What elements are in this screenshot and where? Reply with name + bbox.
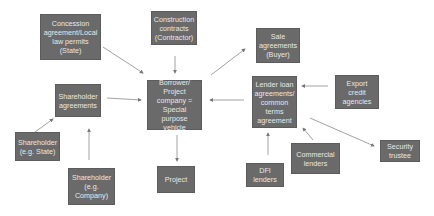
node-shareholder-company: Shareholder (e.g. Company): [68, 168, 115, 205]
arrow-borrower-to-sale: [211, 49, 245, 75]
node-security-trustee: Security trustee: [380, 140, 420, 162]
node-dfi-lenders: DFI lenders: [246, 163, 284, 187]
node-export-credit-agencies: Export credit agencies: [335, 75, 379, 109]
arrow-lender-to-security: [310, 118, 374, 146]
node-construction-contracts: Construction contracts (Contractor): [151, 11, 197, 45]
arrow-concession-to-borrower: [103, 47, 143, 73]
arrow-shareholder-state-to-agreements: [35, 119, 53, 132]
node-project: Project: [157, 166, 195, 193]
node-borrower-project-company: Borrower/ Project company = Special purp…: [147, 80, 202, 130]
arrow-shareholder-agreements-to-borrower: [107, 98, 141, 100]
node-concession-agreement: Concession agreement/Local law permits (…: [40, 14, 101, 60]
node-commercial-lenders: Commercial lenders: [291, 143, 340, 174]
node-lender-loan-agreements: Lender loan agreements/ common terms agr…: [252, 76, 297, 128]
node-shareholder-state: Shareholder (e.g. State): [15, 132, 60, 161]
node-shareholder-agreements: Shareholder agreements: [55, 84, 101, 117]
arrow-commercial-to-lender: [303, 128, 313, 140]
node-sale-agreements: Sale agreements (Buyer): [256, 28, 300, 63]
